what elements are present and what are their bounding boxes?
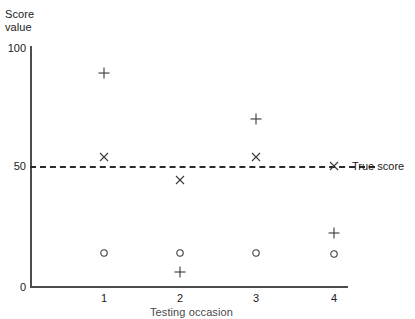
data-point-plus-x1 [98, 67, 110, 79]
true-score-label: True score [352, 161, 404, 172]
x-tick-label-2: 2 [170, 293, 190, 304]
data-point-circle-x3 [250, 247, 262, 259]
data-point-plus-x3 [250, 113, 262, 125]
data-point-plus-x4 [328, 227, 340, 239]
data-point-circle-x2 [174, 247, 186, 259]
data-point-cross-x2 [174, 174, 186, 186]
data-point-cross-x4 [328, 160, 340, 172]
y-tick-label-0: 0 [2, 282, 26, 293]
data-point-circle-x4 [328, 248, 340, 260]
data-point-cross-x3 [250, 151, 262, 163]
x-axis-title: Testing occasion [150, 306, 300, 319]
x-tick-label-4: 4 [324, 293, 344, 304]
y-tick-label-100: 100 [2, 43, 26, 54]
scatter-chart: Score value 050100 1234 True score Testi… [0, 0, 415, 319]
x-tick-label-1: 1 [94, 293, 114, 304]
x-axis-line [30, 286, 348, 288]
y-axis-title: Score value [5, 8, 65, 34]
data-point-cross-x1 [98, 151, 110, 163]
y-tick-label-50: 50 [2, 161, 26, 172]
true-score-reference-line [30, 166, 375, 168]
data-point-plus-x2 [174, 266, 186, 278]
data-point-circle-x1 [98, 247, 110, 259]
x-tick-label-3: 3 [246, 293, 266, 304]
